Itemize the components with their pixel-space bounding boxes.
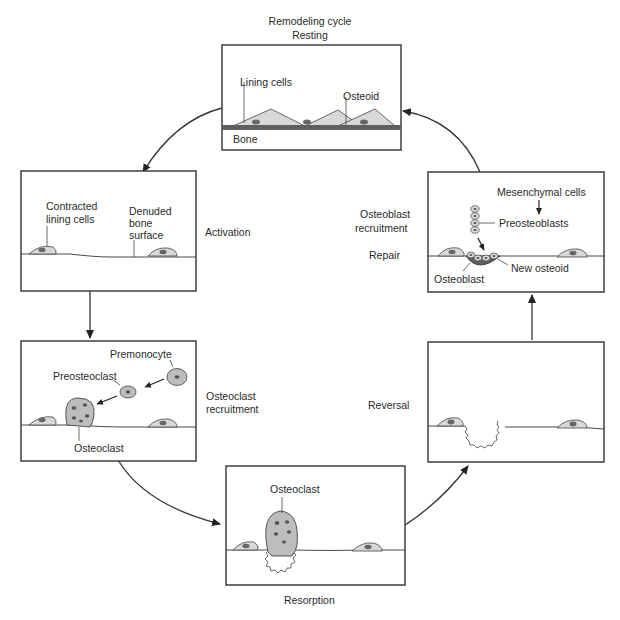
label-contracted-1: Contracted xyxy=(46,200,97,213)
label-mesenchymal-cells: Mesenchymal cells xyxy=(497,186,586,199)
label-new-osteoid: New osteoid xyxy=(511,262,569,275)
stage-repair: Repair xyxy=(369,249,400,262)
label-osteoid: Osteoid xyxy=(343,90,379,103)
label-osteoclast-recruit: Osteoclast xyxy=(74,442,124,455)
remodeling-cycle-diagram xyxy=(0,0,620,620)
title-line-1: Remodeling cycle xyxy=(258,15,362,28)
stage-activation: Activation xyxy=(205,226,251,239)
arrow-resting-to-activation xyxy=(143,108,222,172)
stage-osteoclast-recruitment-2: recruitment xyxy=(206,403,259,416)
label-osteoclast-resorption: Osteoclast xyxy=(270,483,320,496)
label-osteoblast: Osteoblast xyxy=(434,273,484,286)
label-contracted-2: lining cells xyxy=(46,213,94,226)
panel-reversal xyxy=(428,342,604,462)
label-bone: Bone xyxy=(233,133,258,146)
stage-osteoclast-recruitment-1: Osteoclast xyxy=(206,390,256,403)
stage-reversal: Reversal xyxy=(368,399,409,412)
stage-osteoblast-recruitment-1: Osteoblast xyxy=(360,208,410,221)
arrow-osteoblast-recruitment-to-resting xyxy=(403,111,480,172)
label-premonocyte: Premonocyte xyxy=(110,348,172,361)
label-preosteoblasts: Preosteoblasts xyxy=(499,217,568,230)
stage-resorption: Resorption xyxy=(284,594,335,607)
label-preosteoclast: Preosteoclast xyxy=(53,370,117,383)
panel-activation xyxy=(21,171,196,291)
label-denuded-3: surface xyxy=(129,229,163,242)
arrow-osteoclast-recruitment-to-resorption xyxy=(118,460,220,524)
label-lining-cells: Lining cells xyxy=(240,76,292,89)
title-line-2: Resting xyxy=(258,29,362,42)
stage-osteoblast-recruitment-2: recruitment xyxy=(355,222,408,235)
